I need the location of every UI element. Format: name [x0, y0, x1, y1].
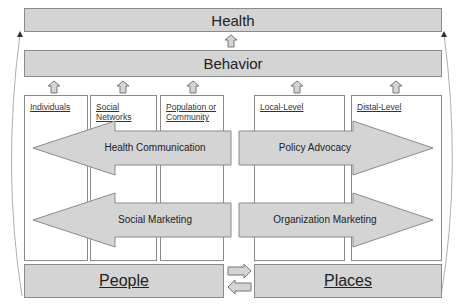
places-label: Places	[324, 272, 372, 290]
exchange-arrows-icon	[0, 0, 461, 306]
places-box: Places	[254, 264, 442, 298]
